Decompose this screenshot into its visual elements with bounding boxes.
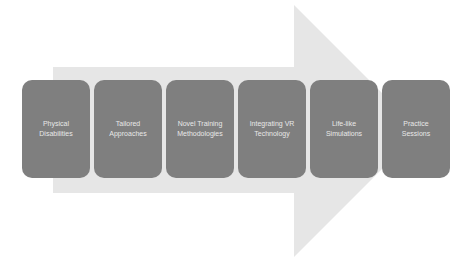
process-steps: Physical Disabilities Tailored Approache… — [22, 80, 450, 178]
step-box-practice-sessions: Practice Sessions — [382, 80, 450, 178]
step-box-tailored-approaches: Tailored Approaches — [94, 80, 162, 178]
step-label: Life-like Simulations — [326, 119, 362, 139]
step-label: Practice Sessions — [402, 119, 430, 139]
step-label: Novel Training Methodologies — [177, 119, 223, 139]
step-box-integrating-vr-technology: Integrating VR Technology — [238, 80, 306, 178]
step-label: Tailored Approaches — [109, 119, 146, 139]
step-box-novel-training-methodologies: Novel Training Methodologies — [166, 80, 234, 178]
step-box-physical-disabilities: Physical Disabilities — [22, 80, 90, 178]
step-label: Physical Disabilities — [39, 119, 72, 139]
step-label: Integrating VR Technology — [250, 119, 295, 139]
step-box-life-like-simulations: Life-like Simulations — [310, 80, 378, 178]
